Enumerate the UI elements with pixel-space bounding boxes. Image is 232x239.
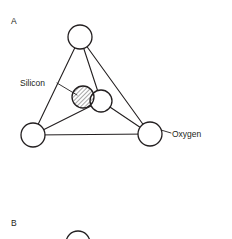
panel-b-group (66, 231, 90, 239)
oxygen-label: Oxygen (172, 129, 202, 139)
panel-letter-a: A (11, 16, 17, 26)
bond-group (33, 37, 150, 135)
bond-top-to-bottom-right (80, 37, 150, 134)
atom-oxygen-top (68, 25, 92, 49)
bond-bottom-left-to-bottom-right (33, 134, 150, 135)
silica-tetrahedron-figure: Silicon Oxygen A B (0, 0, 232, 239)
silicon-label: Silicon (20, 78, 45, 88)
figure-container: Silicon Oxygen A B (0, 0, 232, 239)
atom-oxygen-bottom-right (138, 122, 162, 146)
panel-letter-b: B (11, 218, 17, 228)
atom-silicon-center (72, 86, 94, 108)
atom-panel-b-top (66, 231, 90, 239)
atom-oxygen-bottom-left (21, 123, 45, 147)
